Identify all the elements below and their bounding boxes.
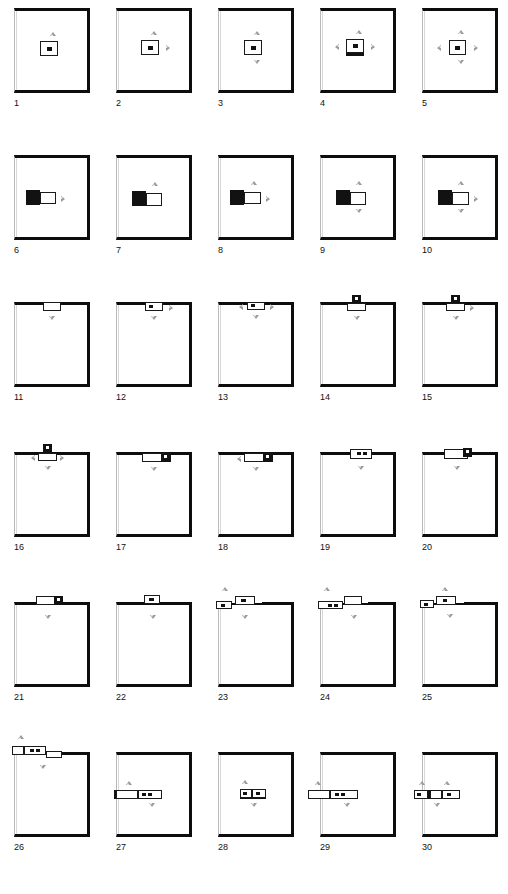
- arrow-up-icon: [254, 31, 260, 35]
- plan-cell: 28: [218, 752, 294, 855]
- marker-dot: [417, 793, 421, 796]
- filled-square-element: [251, 46, 256, 50]
- plan-cell: 17: [116, 452, 192, 555]
- plan-cell: 3: [218, 8, 294, 111]
- arrow-up-icon: [458, 30, 464, 34]
- arrow-down-icon: [150, 615, 156, 619]
- filled-square-element: [148, 46, 153, 50]
- cell-number-label: 30: [422, 843, 432, 852]
- marker-dot: [340, 196, 343, 199]
- open-rect-element: [446, 303, 465, 311]
- arrow-up-icon: [442, 587, 448, 591]
- arrow-up-icon: [356, 30, 362, 34]
- open-rect-element: [146, 193, 162, 206]
- marker-dot: [328, 604, 332, 607]
- marker-dot: [443, 599, 447, 602]
- arrow-down-icon: [253, 467, 259, 471]
- plan-cell: 15: [422, 302, 498, 405]
- marker-dot-light: [164, 455, 167, 458]
- cell-number-label: 29: [320, 843, 330, 852]
- open-rect-element: [145, 302, 163, 311]
- cell-number-label: 26: [14, 843, 24, 852]
- arrow-left-icon: [31, 455, 35, 461]
- arrow-up-icon: [251, 181, 257, 185]
- marker-dot: [447, 793, 451, 796]
- arrow-up-icon: [222, 587, 228, 591]
- marker-dot: [142, 793, 146, 796]
- plan-cell: 19: [320, 452, 396, 555]
- cell-number-label: 2: [116, 99, 121, 108]
- cell-number-label: 11: [14, 393, 23, 402]
- room-outline: [116, 302, 192, 387]
- arrow-up-icon: [242, 780, 248, 784]
- marker-dot: [148, 793, 152, 796]
- arrow-down-icon: [253, 315, 259, 319]
- cell-number-label: 25: [422, 693, 432, 702]
- arrow-down-icon: [45, 466, 51, 470]
- marker-dot: [334, 604, 338, 607]
- plan-cell: 8: [218, 155, 294, 258]
- cell-number-label: 23: [218, 693, 228, 702]
- cell-number-label: 19: [320, 543, 330, 552]
- cell-number-label: 8: [218, 246, 223, 255]
- arrow-right-icon: [166, 45, 170, 51]
- marker-dot: [234, 196, 237, 199]
- marker-dot-light: [46, 446, 49, 449]
- open-rect-element: [244, 192, 261, 204]
- room-outline: [422, 452, 498, 537]
- marker-dot-light: [266, 455, 269, 458]
- arrow-right-icon: [61, 196, 65, 202]
- arrow-left-icon: [239, 304, 243, 310]
- cell-number-label: 1: [14, 99, 19, 108]
- arrow-left-icon: [437, 45, 441, 51]
- arrow-down-icon: [434, 803, 440, 807]
- plan-cell: 16: [14, 452, 90, 555]
- plan-cell: 12: [116, 302, 192, 405]
- cell-number-label: 21: [14, 693, 24, 702]
- arrow-down-icon: [453, 316, 459, 320]
- open-rect-element: [40, 192, 56, 204]
- arrow-right-icon: [270, 304, 274, 310]
- arrow-left-icon: [335, 44, 339, 50]
- arrow-up-icon: [419, 781, 425, 785]
- arrow-down-icon: [40, 765, 46, 769]
- filled-square-element: [336, 190, 350, 205]
- cell-number-label: 15: [422, 393, 432, 402]
- room-outline: [320, 452, 396, 537]
- open-rect-element: [43, 302, 61, 311]
- cell-number-label: 12: [116, 393, 126, 402]
- plan-cell: 9: [320, 155, 396, 258]
- arrow-up-icon: [126, 781, 132, 785]
- arrow-right-icon: [470, 305, 474, 311]
- cell-number-label: 14: [320, 393, 330, 402]
- cell-number-label: 18: [218, 543, 228, 552]
- arrow-down-icon: [447, 614, 453, 618]
- marker-dot: [363, 452, 367, 455]
- open-rect-element: [46, 751, 62, 758]
- cell-number-label: 22: [116, 693, 126, 702]
- open-rect-element: [247, 302, 265, 310]
- arrow-right-icon: [371, 44, 375, 50]
- open-rect-element: [350, 449, 372, 459]
- plan-cell: 4: [320, 8, 396, 111]
- room-outline: [218, 602, 294, 687]
- plan-cell: 21: [14, 602, 90, 705]
- arrow-up-icon: [444, 781, 450, 785]
- marker-dot: [243, 792, 247, 795]
- cell-number-label: 28: [218, 843, 228, 852]
- marker-dot: [341, 793, 345, 796]
- open-rect-element: [116, 790, 138, 799]
- marker-dot-light: [57, 598, 60, 601]
- plan-cell: 13: [218, 302, 294, 405]
- arrow-down-icon: [151, 467, 157, 471]
- plan-cell: 6: [14, 155, 90, 258]
- marker-dot: [335, 793, 339, 796]
- arrow-right-icon: [474, 45, 478, 51]
- cell-number-label: 4: [320, 99, 325, 108]
- room-outline: [14, 302, 90, 387]
- filled-square-element: [353, 44, 358, 48]
- marker-dot: [221, 604, 225, 607]
- marker-dot: [30, 749, 34, 752]
- cell-number-label: 16: [14, 543, 24, 552]
- arrow-up-icon: [18, 735, 24, 739]
